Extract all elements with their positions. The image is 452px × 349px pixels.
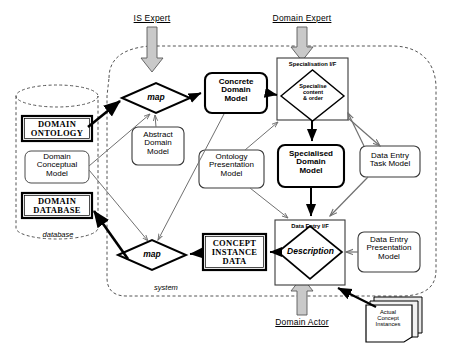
edge-conceptual-to-map-bottom xyxy=(89,170,148,241)
edge-concept-data-to-map xyxy=(190,253,203,254)
domain-ontology-box xyxy=(22,116,92,141)
edge-concrete-to-specialisation xyxy=(267,93,277,95)
ontology-presentation-model-box xyxy=(199,150,264,188)
abstract-domain-model-box xyxy=(132,127,184,165)
edge-map-to-database xyxy=(94,211,128,259)
domain-expert-arrow xyxy=(291,27,313,61)
domain-conceptual-model-box xyxy=(25,151,89,183)
concrete-domain-model-box xyxy=(205,73,267,113)
concept-instance-data-box xyxy=(203,234,266,270)
map-bottom-diamond xyxy=(118,240,186,270)
data-entry-presentation-model-box xyxy=(358,232,420,272)
diagram-graphics xyxy=(0,0,452,349)
edge-ontology-pres-to-dataentry xyxy=(250,188,288,218)
edge-ontology-to-map xyxy=(88,101,120,127)
diagram-canvas: IS Expert Domain Expert Domain Actor dat… xyxy=(0,0,452,349)
data-entry-if-frame xyxy=(275,220,345,285)
edge-map-to-concrete xyxy=(190,93,201,98)
edge-ontology-pres-to-specialisation xyxy=(245,122,278,150)
edge-abstract-to-map xyxy=(155,115,156,127)
data-entry-task-model-box xyxy=(360,146,420,177)
is-expert-arrow xyxy=(141,27,163,72)
edge-instances-to-dataentry xyxy=(338,288,376,307)
domain-database-box xyxy=(22,193,92,218)
specialisation-if-frame xyxy=(277,58,348,121)
specialised-domain-model-box xyxy=(278,145,344,187)
actual-concept-instances-stack xyxy=(366,297,422,342)
map-top-diamond xyxy=(122,83,190,113)
